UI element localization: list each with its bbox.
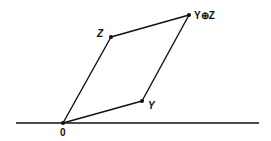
parallelogram-diagram: 0 Y Z Y⊕Z [0,0,271,141]
label-y-plus-z: Y⊕Z [194,10,215,21]
vertex-points [61,13,191,125]
label-y: Y [148,100,156,111]
parallelogram-edges [63,15,189,123]
edge-y-sum [142,15,189,101]
point-z [109,35,113,39]
edge-z-sum [111,15,189,37]
point-sum [187,13,191,17]
point-y [140,99,144,103]
edge-origin-y [63,101,142,123]
label-origin: 0 [60,127,66,138]
point-origin [61,121,65,125]
edge-origin-z [63,37,111,123]
label-z: Z [96,28,104,39]
